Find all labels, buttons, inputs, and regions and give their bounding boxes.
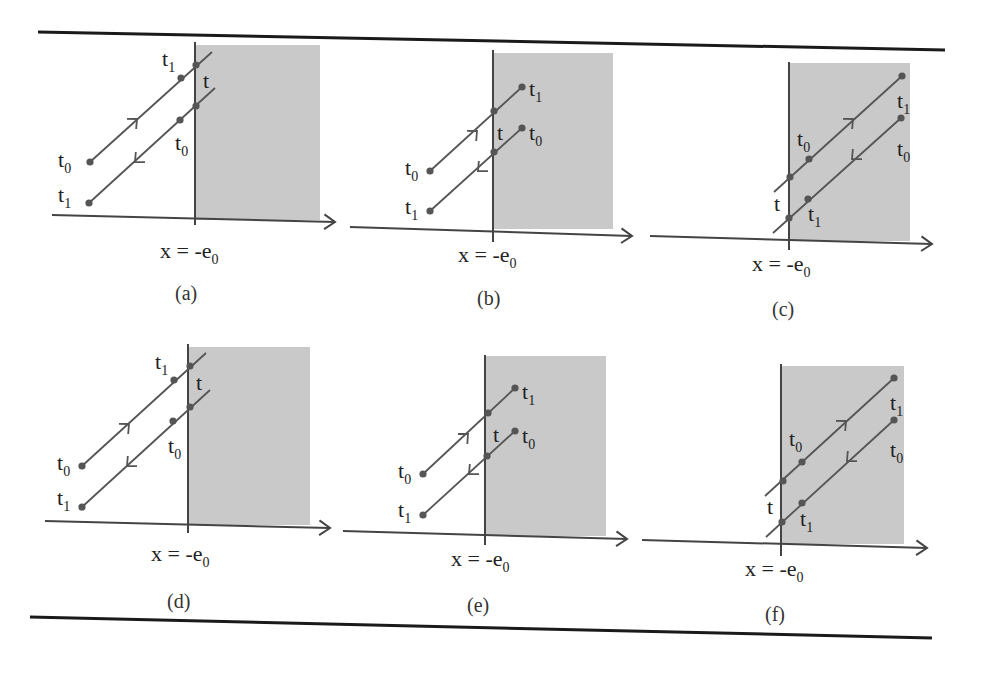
boundary-label: x = -e0 (151, 541, 210, 570)
panel-caption: (d) (167, 590, 190, 613)
time-label: t (196, 370, 202, 395)
time-point-dot (78, 462, 85, 469)
forbidden-region (486, 356, 606, 536)
boundary-label: x = -e0 (752, 251, 811, 280)
panel-caption: (a) (175, 282, 197, 305)
time-point-dot (898, 72, 905, 79)
panel-a: t0t1t1tt0x = -e0(a) (52, 42, 335, 305)
time-label: t0 (57, 450, 70, 479)
time-point-dot (778, 518, 785, 525)
time-point-dot (779, 477, 786, 484)
figure-canvas: t0t1t1tt0x = -e0(a)t0t1t1tt0x = -e0(b)t0… (0, 0, 987, 680)
panel-c: t0tt1t1t0x = -e0(c) (650, 62, 932, 321)
top-rule (38, 32, 945, 50)
time-label: t1 (405, 194, 418, 223)
boundary-label: x = -e0 (160, 238, 219, 267)
time-point-dot (484, 409, 491, 416)
panel-d: t0t1t1tt0x = -e0(d) (45, 344, 330, 613)
time-point-dot (170, 376, 177, 383)
time-label: t0 (58, 147, 71, 176)
forbidden-region (493, 53, 613, 229)
bottom-rule (30, 617, 932, 638)
time-point-dot (490, 107, 497, 114)
time-point-dot (419, 470, 426, 477)
time-label: t1 (58, 182, 71, 211)
time-label: t0 (175, 130, 188, 159)
time-point-dot (169, 417, 176, 424)
time-label: t (493, 422, 499, 447)
time-point-dot (426, 167, 433, 174)
time-point-dot (85, 199, 92, 206)
time-label: t0 (398, 458, 411, 487)
panel-b: t0t1t1tt0x = -e0(b) (350, 50, 632, 310)
time-point-dot (86, 158, 93, 165)
time-point-dot (518, 124, 525, 131)
forbidden-region (189, 347, 310, 525)
time-point-dot (186, 403, 193, 410)
time-label: t0 (168, 433, 181, 462)
panel-f: t0tt1t1t0x = -e0(f) (642, 364, 927, 626)
time-point-dot (186, 362, 193, 369)
time-point-dot (78, 503, 85, 510)
time-label: t (774, 191, 780, 216)
time-label: t (497, 120, 503, 145)
time-point-dot (786, 173, 793, 180)
time-point-dot (176, 116, 183, 123)
panel-e: t0t1t1tt0x = -e0(e) (343, 355, 627, 617)
time-point-dot (518, 83, 525, 90)
time-point-dot (419, 511, 426, 518)
time-label: t (767, 494, 773, 519)
time-label: t0 (405, 155, 418, 184)
panel-caption: (c) (772, 298, 794, 321)
time-label: t1 (162, 46, 175, 75)
panel-caption: (e) (467, 594, 489, 617)
time-point-dot (511, 427, 518, 434)
time-point-dot (490, 148, 497, 155)
panel-caption: (f) (765, 603, 785, 626)
panel-caption: (b) (477, 287, 500, 310)
time-point-dot (192, 61, 199, 68)
time-point-dot (785, 214, 792, 221)
time-point-dot (805, 155, 812, 162)
forbidden-region (195, 45, 320, 220)
time-point-dot (177, 74, 184, 81)
time-label: t1 (155, 349, 168, 378)
time-point-dot (192, 102, 199, 109)
boundary-label: x = -e0 (745, 556, 804, 585)
time-point-dot (890, 374, 897, 381)
time-point-dot (798, 458, 805, 465)
time-point-dot (511, 384, 518, 391)
time-point-dot (426, 207, 433, 214)
time-label: t (203, 68, 209, 93)
time-label: t1 (398, 497, 411, 526)
boundary-label: x = -e0 (458, 242, 517, 271)
boundary-label: x = -e0 (451, 546, 510, 575)
time-label: t1 (57, 485, 70, 514)
time-point-dot (483, 452, 490, 459)
